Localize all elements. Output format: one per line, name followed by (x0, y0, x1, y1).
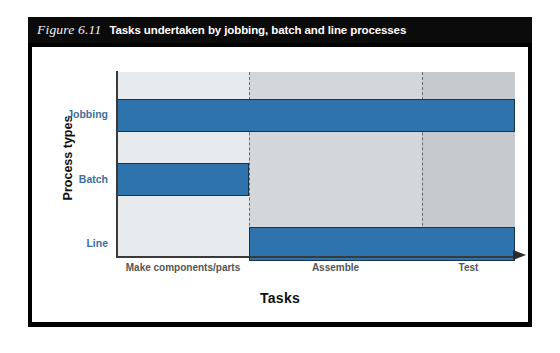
bar-jobbing (117, 99, 515, 132)
x-tick-label-test: Test (379, 262, 559, 273)
y-axis-line (116, 71, 118, 257)
category-label-line: Line (86, 237, 108, 249)
x-axis-line (116, 256, 515, 258)
figure-number: Figure 6.11 (28, 22, 101, 38)
figure-caption-text: Tasks undertaken by jobbing, batch and l… (101, 24, 406, 36)
chart-canvas: Process types Jobbing Batch Line Make co… (32, 47, 528, 322)
category-label-batch: Batch (79, 173, 108, 185)
x-axis-title: Tasks (32, 290, 528, 306)
plot-area (117, 72, 515, 256)
right-arrow-icon (513, 250, 526, 260)
bar-batch (117, 163, 249, 196)
figure-caption-bar: Figure 6.11 Tasks undertaken by jobbing,… (28, 17, 532, 43)
figure-frame: Figure 6.11 Tasks undertaken by jobbing,… (28, 17, 532, 327)
category-label-jobbing: Jobbing (67, 108, 108, 120)
